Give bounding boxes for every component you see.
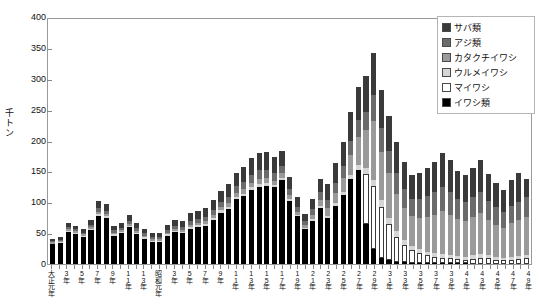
stacked-bar <box>188 213 193 264</box>
stacked-bar <box>195 211 200 264</box>
bar-column <box>416 19 424 264</box>
bar-segment <box>394 237 399 262</box>
bar-segment <box>432 162 437 193</box>
bar-column <box>255 19 263 264</box>
legend-item[interactable]: サバ類 <box>442 20 531 35</box>
bar-segment <box>234 186 239 193</box>
bar-column <box>278 19 286 264</box>
stacked-bar <box>432 162 437 265</box>
legend-item-label: ウルメイワシ <box>454 68 508 78</box>
bar-segment <box>96 201 101 208</box>
stacked-bar <box>310 199 315 264</box>
x-axis-tick-label: 45年 <box>494 270 502 290</box>
stacked-bar <box>379 90 384 264</box>
bar-segment <box>470 259 475 264</box>
legend-item-label: イワシ類 <box>454 98 490 108</box>
legend-item-label: サバ類 <box>454 23 481 33</box>
stacked-bar <box>302 214 307 264</box>
x-axis-tick-label: 43年 <box>478 270 486 290</box>
bar-column <box>217 19 225 264</box>
bar-column <box>164 19 172 264</box>
x-axis-tick-mark <box>105 265 106 269</box>
bar-segment <box>394 194 399 231</box>
bar-segment <box>157 242 162 264</box>
bar-segment <box>58 243 63 264</box>
stacked-bar <box>218 191 223 264</box>
stacked-bar <box>333 163 338 264</box>
x-axis-tick-mark <box>128 265 129 269</box>
bar-column <box>141 19 149 264</box>
legend-item[interactable]: イワシ類 <box>442 95 531 110</box>
legend-swatch-icon <box>442 53 451 62</box>
stacked-bar <box>394 142 399 264</box>
bar-column <box>110 19 118 264</box>
bar-segment <box>486 220 491 256</box>
bar-segment <box>425 255 430 263</box>
bar-segment <box>455 263 460 264</box>
legend-item[interactable]: ウルメイワシ <box>442 65 531 80</box>
x-axis-tick-label: 29年 <box>370 270 378 290</box>
x-axis-tick-mark <box>497 265 498 269</box>
bar-segment <box>455 171 460 199</box>
bar-segment <box>440 187 445 210</box>
stacked-bar <box>470 168 475 264</box>
y-axis-tick-mark <box>47 80 52 81</box>
x-axis-tick-mark <box>59 265 60 269</box>
bar-column <box>324 19 332 264</box>
x-axis-tick-mark <box>359 265 360 269</box>
bar-segment <box>356 170 361 264</box>
chart-container: 千トン 050100150200250300350400 大正元年3年5年7年9… <box>0 0 549 308</box>
bar-segment <box>249 175 254 183</box>
stacked-bar <box>157 233 162 264</box>
bar-segment <box>188 229 193 264</box>
stacked-bar <box>81 229 86 264</box>
bar-column <box>187 19 195 264</box>
x-axis-tick-mark <box>182 265 183 269</box>
x-axis-tick-label: 23年 <box>324 270 332 290</box>
bar-segment <box>279 151 284 166</box>
x-axis-tick-label: 25年 <box>340 270 348 290</box>
stacked-bar <box>402 162 407 264</box>
x-axis-tick-mark <box>197 265 198 269</box>
stacked-bar <box>142 229 147 264</box>
bar-segment <box>448 263 453 264</box>
legend-item[interactable]: カタクチイワシ <box>442 50 531 65</box>
bar-segment <box>180 233 185 264</box>
x-axis-tick-label: 39年 <box>447 270 455 290</box>
x-axis-tick-label: 5年 <box>186 270 194 283</box>
bar-segment <box>409 263 414 264</box>
x-axis-tick-labels: 大正元年3年5年7年9年11年13年昭和元年3年5年7年9年11年13年15年1… <box>47 270 532 308</box>
x-axis-tick-mark <box>243 265 244 269</box>
bar-segment <box>96 216 101 264</box>
bar-segment <box>104 218 109 264</box>
stacked-bar <box>356 87 361 264</box>
x-axis-tick-mark <box>266 265 267 269</box>
bar-column <box>362 19 370 264</box>
bar-column <box>263 19 271 264</box>
bar-segment <box>524 179 529 198</box>
stacked-bar <box>134 223 139 264</box>
x-axis-tick-mark <box>459 265 460 269</box>
bar-segment <box>341 142 346 165</box>
y-axis-tick-mark <box>47 172 52 173</box>
bar-segment <box>501 190 506 212</box>
bar-segment <box>363 224 368 264</box>
x-axis-tick-label: 5年 <box>78 270 86 283</box>
bar-segment <box>249 190 254 264</box>
bar-segment <box>234 173 239 187</box>
legend-item[interactable]: マイワシ <box>442 80 531 95</box>
stacked-bar <box>455 171 460 264</box>
bar-segment <box>455 199 460 219</box>
x-axis-tick-label: 大正元年 <box>47 270 55 296</box>
x-axis-tick-label: 3年 <box>62 270 70 283</box>
bar-segment <box>127 227 132 264</box>
bar-column <box>339 19 347 264</box>
legend-swatch-icon <box>442 98 451 107</box>
bar-column <box>332 19 340 264</box>
bar-segment <box>417 199 422 218</box>
bar-segment <box>371 95 376 121</box>
bar-segment <box>516 202 521 221</box>
bar-segment <box>264 170 269 179</box>
legend-item[interactable]: アジ類 <box>442 35 531 50</box>
bar-column <box>118 19 126 264</box>
